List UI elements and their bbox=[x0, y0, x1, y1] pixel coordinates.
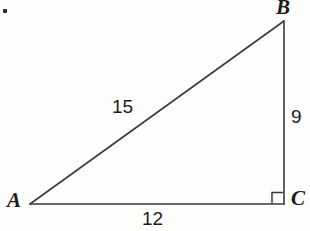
side-ab-hypotenuse-line bbox=[30, 21, 284, 204]
side-length-label-ab: 15 bbox=[112, 97, 133, 116]
vertex-label-a: A bbox=[7, 190, 21, 211]
side-length-label-bc: 9 bbox=[291, 107, 302, 126]
vertex-label-b: B bbox=[276, 0, 290, 18]
right-triangle-figure: A B C 15 9 12 bbox=[0, 0, 310, 231]
side-length-label-ac: 12 bbox=[142, 209, 163, 228]
right-angle-marker-icon bbox=[272, 193, 283, 204]
triangle-drawing bbox=[0, 0, 310, 231]
vertex-label-c: C bbox=[291, 188, 305, 209]
